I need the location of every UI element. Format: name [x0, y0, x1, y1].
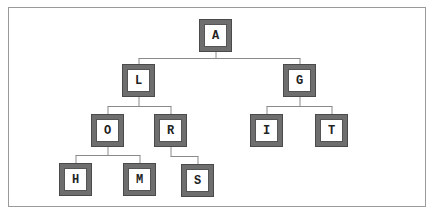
node-label: S	[186, 169, 209, 192]
tree-node-m: M	[123, 163, 156, 196]
tree-node-l: L	[122, 64, 155, 97]
node-label: H	[64, 168, 87, 191]
tree-node-a: A	[199, 19, 232, 52]
tree-node-t: T	[315, 114, 348, 147]
node-label: O	[96, 119, 119, 142]
tree-node-s: S	[181, 164, 214, 197]
node-label: I	[255, 119, 278, 142]
tree-node-r: R	[154, 114, 187, 147]
node-label: R	[159, 119, 182, 142]
node-label: L	[127, 69, 150, 92]
tree-node-h: H	[59, 163, 92, 196]
node-label: G	[288, 69, 311, 92]
tree-node-o: O	[91, 114, 124, 147]
tree-node-i: I	[250, 114, 283, 147]
node-label: M	[128, 168, 151, 191]
node-label: A	[204, 24, 227, 47]
node-label: T	[320, 119, 343, 142]
tree-node-g: G	[283, 64, 316, 97]
